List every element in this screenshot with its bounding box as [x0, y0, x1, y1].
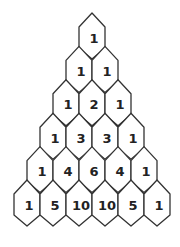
cell-value: 4 — [63, 164, 72, 179]
cell-value: 1 — [102, 64, 111, 79]
cell-value: 6 — [89, 164, 98, 179]
cell-value: 5 — [50, 198, 59, 213]
cell-value: 1 — [141, 164, 150, 179]
cell-value: 1 — [76, 64, 85, 79]
cell-value: 10 — [98, 198, 116, 213]
pascal-triangle-diagram: 11112113311464115101051 — [0, 0, 180, 247]
cell-value: 1 — [89, 31, 98, 46]
cell-value: 10 — [72, 198, 90, 213]
cell-value: 1 — [128, 131, 137, 146]
cell-value: 2 — [89, 97, 98, 112]
cell-value: 1 — [154, 198, 163, 213]
cell-value: 3 — [76, 131, 85, 146]
cell-value: 3 — [102, 131, 111, 146]
cell-value: 1 — [50, 131, 59, 146]
hexagon-grid: 11112113311464115101051 — [0, 0, 180, 247]
cell-value: 1 — [24, 198, 33, 213]
cell-value: 4 — [115, 164, 124, 179]
cell-value: 1 — [115, 97, 124, 112]
cell-value: 5 — [128, 198, 137, 213]
cell-value: 1 — [63, 97, 72, 112]
cell-value: 1 — [37, 164, 46, 179]
